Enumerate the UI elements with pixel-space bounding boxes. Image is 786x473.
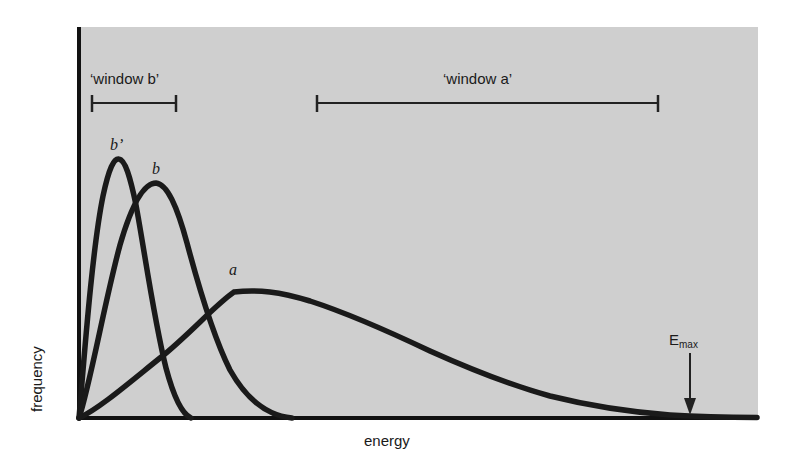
curve-label-b-prime: b’ (110, 136, 123, 154)
emax-symbol: E (669, 331, 679, 348)
emax-arrow (684, 353, 696, 415)
figure-container: frequency energy ‘window b’ ‘window a’ b… (0, 0, 786, 473)
emax-label: Emax (669, 331, 698, 348)
x-axis-label: energy (364, 432, 410, 449)
curve-label-a: a (229, 261, 237, 279)
curve-a (79, 291, 757, 418)
curve-label-b: b (152, 160, 160, 178)
curve-b (79, 183, 292, 418)
window-a-label: ‘window a’ (443, 70, 512, 87)
window-a-bracket (317, 95, 658, 112)
window-b-bracket (92, 95, 176, 112)
y-axis-label-wrap: frequency (34, 180, 54, 300)
emax-subscript: max (679, 339, 698, 350)
window-b-label: ‘window b’ (90, 70, 159, 87)
y-axis-label: frequency (28, 292, 45, 412)
